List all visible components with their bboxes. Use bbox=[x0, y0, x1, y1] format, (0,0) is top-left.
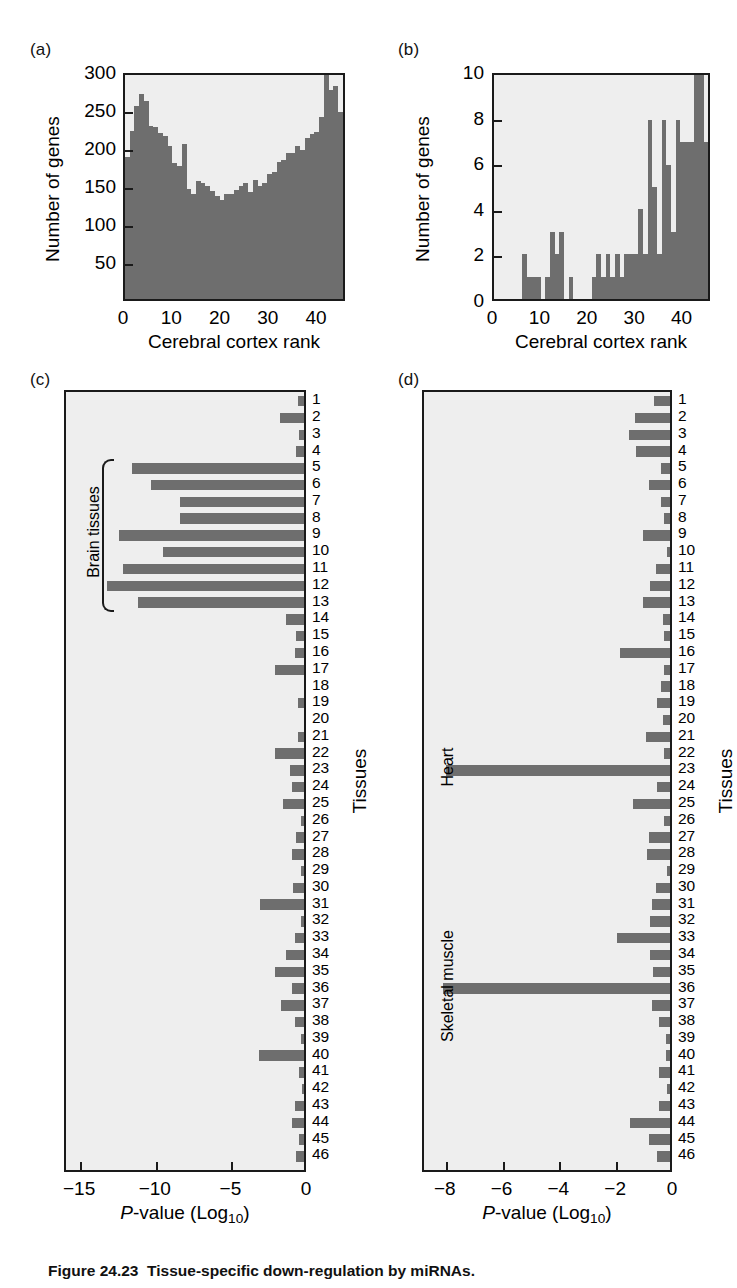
tissue-row-number: 21 bbox=[678, 727, 695, 743]
tissue-bar bbox=[292, 1118, 304, 1128]
tissue-row-number: 5 bbox=[678, 459, 687, 475]
tissue-row-number: 19 bbox=[312, 694, 329, 710]
tissue-bar bbox=[299, 1134, 304, 1144]
tissue-bar bbox=[664, 665, 670, 675]
tissue-bar bbox=[295, 1017, 304, 1027]
x-tick-label: −10 bbox=[139, 1178, 171, 1200]
tissue-row-number: 44 bbox=[312, 1113, 329, 1129]
x-tick-label: −8 bbox=[434, 1178, 456, 1200]
tissue-bar bbox=[301, 866, 304, 876]
panel-d-xlabel-rest: -value (Log bbox=[495, 1202, 590, 1223]
tissue-bar bbox=[650, 581, 670, 591]
tissue-bar bbox=[620, 648, 670, 658]
tissue-row-number: 25 bbox=[312, 794, 329, 810]
tissue-bar bbox=[301, 916, 304, 926]
tissue-row-number: 10 bbox=[312, 543, 329, 559]
tissue-bar bbox=[292, 849, 304, 859]
x-tick-label: 0 bbox=[487, 307, 498, 329]
panel-c-label: (c) bbox=[30, 370, 50, 390]
panel-d-label: (d) bbox=[398, 370, 419, 390]
tissue-row-number: 15 bbox=[678, 626, 695, 642]
tissue-bar bbox=[667, 547, 670, 557]
tissue-row-number: 39 bbox=[678, 1029, 695, 1045]
x-tick-label: 10 bbox=[161, 307, 182, 329]
tissue-row-number: 10 bbox=[678, 543, 695, 559]
y-tick-label: 2 bbox=[473, 244, 484, 266]
tissue-bar bbox=[653, 967, 670, 977]
brain-tissues-group-label: Brain tissues bbox=[85, 458, 103, 607]
panel-d-xlabel-end: ) bbox=[605, 1202, 611, 1223]
tissue-bar bbox=[661, 463, 670, 473]
tissue-row-number: 16 bbox=[678, 643, 695, 659]
x-tick-label: 30 bbox=[624, 307, 645, 329]
tissue-row-number: 35 bbox=[678, 962, 695, 978]
tissue-row-number: 3 bbox=[312, 425, 321, 441]
x-tick-mark bbox=[156, 1162, 158, 1170]
tissue-row-number: 41 bbox=[312, 1063, 329, 1079]
brain-tissues-bracket bbox=[102, 459, 114, 612]
x-tick-label: 0 bbox=[118, 307, 129, 329]
tissue-row-number: 34 bbox=[678, 945, 695, 961]
tissue-bar bbox=[275, 748, 304, 758]
y-tick-label: 150 bbox=[84, 176, 116, 198]
tissue-bar bbox=[295, 1101, 304, 1111]
tissue-row-number: 45 bbox=[678, 1130, 695, 1146]
x-tick-label: −2 bbox=[604, 1178, 626, 1200]
panel-d-xlabel-sub: 10 bbox=[590, 1211, 605, 1226]
panel-b-x-axis-title: Cerebral cortex rank bbox=[492, 331, 710, 353]
tissue-bar bbox=[667, 866, 670, 876]
tissue-bar bbox=[298, 732, 304, 742]
panel-c-y-axis-title: Tissues bbox=[349, 721, 371, 841]
panel-d-y-axis-title: Tissues bbox=[715, 721, 737, 841]
tissue-bar bbox=[443, 983, 670, 993]
x-tick-mark bbox=[231, 1162, 233, 1170]
y-tick-mark bbox=[125, 264, 133, 266]
y-tick-mark bbox=[125, 226, 133, 228]
tissue-bar bbox=[664, 816, 670, 826]
tissue-row-number: 6 bbox=[312, 475, 321, 491]
x-tick-label: 0 bbox=[301, 1178, 312, 1200]
tissue-bar bbox=[296, 1151, 304, 1161]
tissue-row-number: 26 bbox=[678, 811, 695, 827]
tissue-bar bbox=[643, 530, 670, 540]
tissue-row-number: 18 bbox=[678, 677, 695, 693]
y-tick-mark bbox=[494, 165, 502, 167]
y-tick-label: 250 bbox=[84, 100, 116, 122]
tissue-row-number: 22 bbox=[312, 744, 329, 760]
tissue-row-number: 31 bbox=[678, 895, 695, 911]
tissue-bar bbox=[296, 832, 304, 842]
tissue-bar bbox=[275, 665, 304, 675]
panel-d-x-axis-title: P-value (Log10) bbox=[422, 1202, 672, 1226]
y-tick-label: 200 bbox=[84, 138, 116, 160]
panel-d-bars bbox=[424, 392, 670, 1170]
tissue-row-number: 30 bbox=[312, 878, 329, 894]
tissue-row-number: 23 bbox=[678, 761, 695, 777]
tissue-bar bbox=[119, 530, 304, 540]
y-tick-label: 100 bbox=[84, 214, 116, 236]
y-tick-label: 50 bbox=[95, 252, 116, 274]
tissue-row-number: 20 bbox=[312, 710, 329, 726]
tissue-row-number: 40 bbox=[678, 1046, 695, 1062]
tissue-bar bbox=[664, 748, 670, 758]
tissue-bar bbox=[636, 446, 670, 456]
tissue-row-number: 31 bbox=[312, 895, 329, 911]
tissue-row-number: 45 bbox=[312, 1130, 329, 1146]
tissue-bar bbox=[663, 715, 670, 725]
histogram-bar bbox=[704, 142, 709, 299]
tissue-row-number: 41 bbox=[678, 1063, 695, 1079]
tissue-row-number: 33 bbox=[312, 928, 329, 944]
tissue-bar bbox=[643, 597, 670, 607]
tissue-row-number: 14 bbox=[678, 610, 695, 626]
histogram-bar bbox=[536, 277, 541, 299]
tissue-bar bbox=[649, 480, 670, 490]
tissue-row-number: 11 bbox=[312, 559, 328, 575]
tissue-row-number: 11 bbox=[678, 559, 694, 575]
tissue-bar bbox=[667, 1084, 670, 1094]
tissue-row-number: 33 bbox=[678, 928, 695, 944]
tissue-row-number: 32 bbox=[678, 912, 695, 928]
tissue-row-number: 13 bbox=[678, 593, 695, 609]
tissue-row-number: 30 bbox=[678, 878, 695, 894]
tissue-bar bbox=[283, 799, 304, 809]
tissue-row-number: 35 bbox=[312, 962, 329, 978]
tissue-row-number: 32 bbox=[312, 912, 329, 928]
